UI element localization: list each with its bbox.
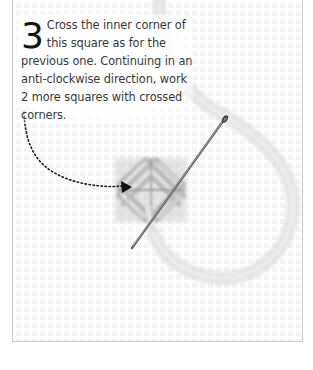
plastic-canvas-grid: 3Cross the inner corner of this square a… <box>12 0 303 342</box>
step-number: 3 <box>21 22 44 52</box>
step-text: Cross the inner corner of this square as… <box>21 18 192 122</box>
step-instruction: 3Cross the inner corner of this square a… <box>21 16 193 124</box>
